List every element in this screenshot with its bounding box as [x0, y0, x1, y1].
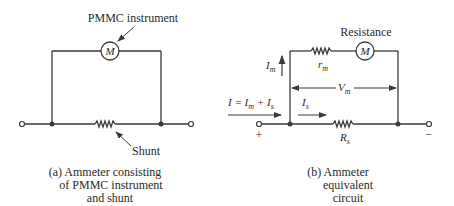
- circuit-a: [25, 51, 188, 127]
- minus-sign: −: [426, 127, 433, 141]
- caption-a: (a) Ammeter consisting of PMMC instrumen…: [49, 165, 164, 205]
- rs-label: Rs: [339, 131, 350, 146]
- im-label: Im: [265, 59, 276, 74]
- is-label: Is: [301, 96, 309, 111]
- svg-text:(a) Ammeter consisting: (a) Ammeter consisting: [49, 165, 162, 179]
- shunt-label: Shunt: [132, 144, 161, 158]
- junction-a-left: [50, 122, 55, 127]
- junction-a-right: [159, 122, 164, 127]
- meter-b: M: [356, 42, 374, 60]
- junction-b-left: [288, 122, 293, 127]
- vm-label: Vm: [338, 81, 351, 96]
- meter-a-symbol: M: [104, 45, 115, 57]
- caption-b: (b) Ammeter equivalent circuit: [307, 165, 373, 205]
- svg-text:(b) Ammeter: (b) Ammeter: [307, 165, 369, 179]
- terminal-a-left: [20, 122, 25, 127]
- terminal-b-minus: [427, 122, 432, 127]
- meter-b-symbol: M: [359, 45, 370, 57]
- pmmc-pointer-arrow: [118, 27, 134, 41]
- pmmc-label: PMMC instrument: [88, 11, 179, 25]
- svg-text:of PMMC instrument: of PMMC instrument: [59, 178, 163, 192]
- meter-a: M: [101, 42, 119, 60]
- rm-label: rm: [318, 58, 328, 73]
- plus-sign: +: [256, 128, 263, 142]
- shunt-pointer-arrow: [116, 132, 131, 146]
- terminal-a-right: [189, 122, 194, 127]
- ammeter-diagram: M PMMC instrument Shunt (a) Ammeter cons…: [0, 0, 454, 206]
- resistance-label: Resistance: [340, 25, 391, 39]
- junction-b-right: [396, 122, 401, 127]
- svg-text:and shunt: and shunt: [87, 191, 134, 205]
- total-current-label: I = Im + Is: [227, 96, 274, 111]
- svg-text:circuit: circuit: [333, 191, 364, 205]
- terminal-b-plus: [257, 122, 262, 127]
- svg-text:equivalent: equivalent: [323, 178, 374, 192]
